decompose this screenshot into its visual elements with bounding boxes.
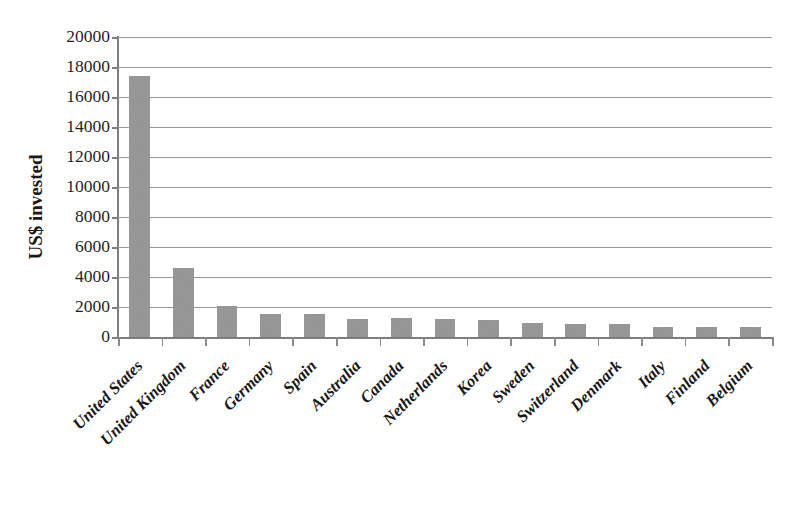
gridline	[118, 37, 772, 38]
y-tick-mark	[112, 217, 118, 219]
gridline	[118, 277, 772, 278]
y-tick-label: 4000	[46, 268, 110, 286]
gridline	[118, 217, 772, 218]
y-tick-label: 16000	[46, 88, 110, 106]
bar-chart: US$ invested 200001800016000140001200010…	[0, 0, 801, 517]
y-tick-label: 8000	[46, 208, 110, 226]
y-tick-label: 18000	[46, 58, 110, 76]
y-tick-label: 20000	[46, 28, 110, 46]
y-axis-title: US$ invested	[25, 107, 47, 307]
bar	[435, 319, 456, 337]
bar	[478, 320, 499, 337]
y-tick-label: 14000	[46, 118, 110, 136]
plot-area	[118, 37, 772, 337]
bar	[260, 314, 281, 337]
bar	[217, 306, 238, 337]
gridline	[118, 67, 772, 68]
y-tick-mark	[112, 187, 118, 189]
x-tick-label: Italy	[634, 356, 670, 392]
y-tick-mark	[112, 277, 118, 279]
bar	[522, 323, 543, 337]
bar	[653, 327, 674, 338]
y-tick-label: 6000	[46, 238, 110, 256]
bar	[173, 268, 194, 337]
y-tick-mark	[112, 127, 118, 129]
gridline	[118, 187, 772, 188]
bar	[565, 324, 586, 337]
x-tick-mark	[772, 337, 774, 346]
y-tick-mark	[112, 97, 118, 99]
gridline	[118, 97, 772, 98]
gridline	[118, 127, 772, 128]
gridline	[118, 157, 772, 158]
bar	[696, 327, 717, 337]
y-tick-label: 12000	[46, 148, 110, 166]
bar	[740, 327, 761, 337]
bar	[609, 324, 630, 337]
bar	[129, 76, 150, 337]
y-tick-mark	[112, 247, 118, 249]
y-tick-label: 0	[46, 328, 110, 346]
gridline	[118, 247, 772, 248]
x-tick-label: Belgium	[702, 356, 757, 411]
gridline	[118, 337, 772, 338]
y-tick-label: 10000	[46, 178, 110, 196]
bar	[391, 318, 412, 337]
bar	[304, 314, 325, 337]
y-tick-mark	[112, 157, 118, 159]
y-tick-mark	[112, 67, 118, 69]
y-tick-mark	[112, 307, 118, 309]
bar	[347, 319, 368, 337]
y-tick-label: 2000	[46, 298, 110, 316]
x-axis-tick-labels: United StatesUnited KingdomFranceGermany…	[118, 342, 772, 517]
y-tick-mark	[112, 37, 118, 39]
